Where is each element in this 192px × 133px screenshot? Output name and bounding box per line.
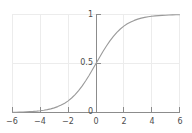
x-tick-label-neg2: −2 — [62, 118, 74, 126]
x-tick-label-6: 6 — [177, 118, 182, 126]
x-tick-label-4: 4 — [149, 118, 154, 126]
sigmoid-chart-figure: −6 −4 −2 0 2 4 6 1 0.5 0 — [0, 0, 192, 133]
x-tick-label-0: 0 — [93, 118, 98, 126]
plot-canvas — [0, 0, 192, 133]
x-tick-label-neg4: −4 — [34, 118, 46, 126]
y-tick-label-0: 0 — [73, 108, 93, 116]
y-tick-label-1: 1 — [73, 11, 93, 19]
y-tick-label-0-5: 0.5 — [73, 59, 93, 67]
x-tick-label-2: 2 — [121, 118, 126, 126]
x-tick-label-neg6: −6 — [6, 118, 18, 126]
